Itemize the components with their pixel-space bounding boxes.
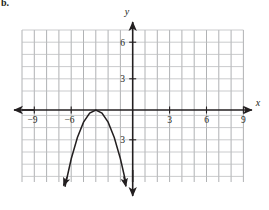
x-tick-label-9: 9 (241, 115, 246, 125)
x-axis-label: x (255, 97, 261, 108)
x-tick-label-6: 6 (204, 115, 209, 125)
y-tick-label-neg3: 3 (120, 135, 125, 145)
y-axis-label: y (124, 6, 130, 17)
figure-panel: b. (0, 0, 269, 210)
x-tick-label-neg9: −9 (27, 115, 37, 125)
x-tick-label-neg6: −6 (64, 115, 74, 125)
x-tick-label-3: 3 (167, 115, 172, 125)
coordinate-plane: x y −9 −6 3 6 9 6 3 3 (0, 0, 269, 210)
y-tick-label-3: 3 (120, 74, 125, 84)
parabola-right-arrowhead (124, 176, 126, 186)
y-tick-label-6: 6 (120, 38, 125, 48)
